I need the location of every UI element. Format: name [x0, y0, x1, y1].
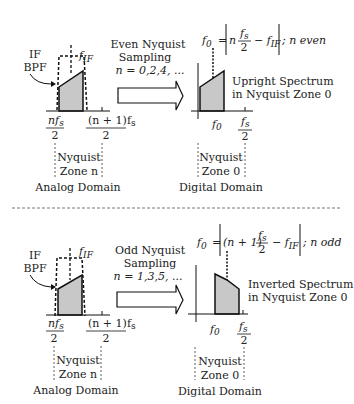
- left-edge-label: nfs: [48, 317, 64, 331]
- zone-label: Zone 0: [202, 165, 240, 178]
- bottom-analog-domain: IF BPF fIF nfs 2 (n + 1)fs 2 Nyquist Zon…: [23, 245, 136, 397]
- spectrum-label: Inverted Spectrum: [248, 278, 354, 291]
- bpf-label: BPF: [23, 262, 46, 275]
- zone-label: Zone n: [59, 368, 97, 381]
- formula-n: (n + 1): [223, 236, 262, 249]
- fs-half-den: 2: [241, 334, 248, 347]
- domain-label: Analog Domain: [32, 384, 118, 397]
- left-edge-den: 2: [51, 332, 58, 345]
- formula-fif: − fIF: [272, 236, 299, 251]
- zone-label: Zone 0: [201, 369, 239, 382]
- analog-spectrum: [58, 275, 82, 315]
- sampling-label: Sampling: [124, 257, 177, 270]
- bottom-panel: IF BPF fIF nfs 2 (n + 1)fs 2 Nyquist Zon…: [23, 224, 353, 398]
- right-edge-label: (n + 1)fs: [88, 317, 136, 331]
- formula-den: 2: [241, 41, 248, 54]
- inverted-spectrum: [215, 274, 239, 314]
- nyquist-zone-diagram: IF BPF fIF nfs 2 (n + 1)fs 2: [0, 0, 354, 404]
- sampling-label: n = 1,3,5, ...: [114, 270, 183, 283]
- zone-label: Nyquist: [56, 354, 100, 367]
- zone-label: Nyquist: [57, 151, 101, 164]
- bpf-label: IF: [29, 48, 41, 61]
- top-panel: IF BPF fIF nfs 2 (n + 1)fs 2: [23, 24, 334, 194]
- zone-label: Nyquist: [199, 151, 243, 164]
- sampling-label: Odd Nyquist: [115, 244, 186, 257]
- domain-label: Analog Domain: [34, 181, 120, 194]
- bpf-label: IF: [29, 249, 41, 262]
- zone-label: Nyquist: [198, 355, 242, 368]
- right-arrow-icon: [118, 81, 183, 110]
- left-edge-den: 2: [52, 129, 59, 142]
- bpf-label: BPF: [23, 61, 46, 74]
- fs-half-den: 2: [242, 130, 249, 143]
- formula-tail: ; n odd: [302, 236, 342, 249]
- formula-den: 2: [259, 243, 266, 256]
- formula-f0: f0: [196, 236, 207, 251]
- analog-spectrum: [59, 71, 83, 111]
- domain-label: Digital Domain: [178, 385, 262, 398]
- fs-half-label: fs: [240, 115, 250, 129]
- sampling-label: n = 0,2,4, ...: [116, 64, 185, 77]
- right-edge-den: 2: [103, 129, 110, 142]
- formula-fs: fs: [239, 27, 249, 41]
- right-edge-label: (n + 1)fs: [88, 114, 136, 128]
- left-edge-label: nfs: [48, 114, 64, 128]
- bottom-sampling-arrow: Odd Nyquist Sampling n = 1,3,5, ...: [114, 244, 186, 314]
- f0-axis-label: f0: [211, 118, 222, 132]
- bpf-pointer-arrow: [30, 74, 51, 84]
- upright-spectrum: [200, 71, 224, 111]
- spectrum-label: in Nyquist Zone 0: [232, 88, 332, 101]
- sampling-label: Sampling: [119, 51, 172, 64]
- fs-half-label: fs: [238, 320, 248, 334]
- f0-axis-label: f0: [209, 323, 220, 337]
- formula-n: n: [229, 34, 236, 47]
- zone-label: Zone n: [60, 165, 98, 178]
- bottom-digital-domain: f0 = (n + 1) fs 2 − fIF ; n odd Inverted…: [178, 224, 354, 398]
- top-digital-domain: f0 = n fs 2 − fIF ; n even Upright Spect…: [179, 24, 334, 194]
- formula-f0: f0: [201, 34, 212, 49]
- formula-fif: − fIF: [254, 34, 281, 49]
- top-sampling-arrow: Even Nyquist Sampling n = 0,2,4, ...: [111, 38, 186, 110]
- formula-tail: ; n even: [281, 34, 326, 47]
- sampling-label: Even Nyquist: [111, 38, 186, 51]
- spectrum-label: Upright Spectrum: [232, 75, 334, 88]
- arrow-head-icon: [51, 81, 56, 87]
- right-arrow-icon: [117, 285, 183, 314]
- spectrum-label: in Nyquist Zone 0: [248, 291, 348, 304]
- bpf-pointer-arrow: [30, 275, 51, 287]
- right-edge-den: 2: [103, 332, 110, 345]
- domain-label: Digital Domain: [179, 181, 263, 194]
- formula-fs: fs: [257, 229, 267, 243]
